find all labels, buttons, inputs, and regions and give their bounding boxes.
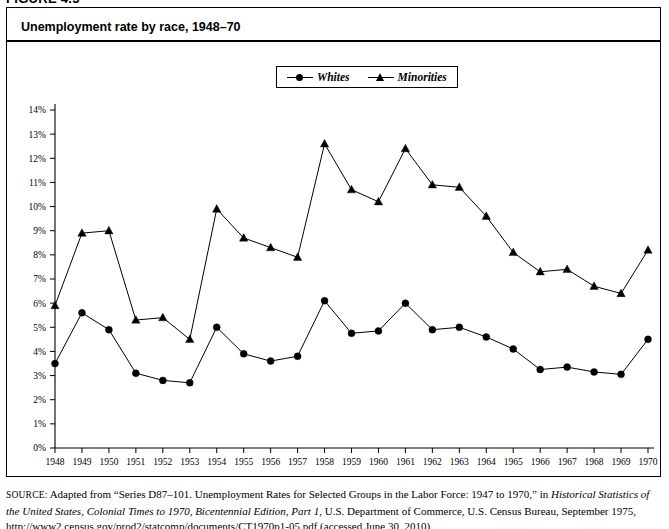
x-tick-label: 1963: [450, 457, 469, 467]
y-tick-label: 7%: [33, 274, 46, 284]
x-tick-label: 1970: [639, 457, 658, 467]
data-point-triangle[interactable]: [105, 226, 113, 234]
series-whites: [52, 297, 652, 386]
y-tick-label: 1%: [33, 419, 46, 429]
y-tick-label: 3%: [33, 371, 46, 381]
series-line: [55, 301, 648, 383]
data-point-circle[interactable]: [564, 364, 571, 371]
data-point-circle[interactable]: [159, 377, 166, 384]
y-tick-label: 14%: [29, 105, 47, 115]
y-tick-label: 4%: [33, 347, 46, 357]
x-tick-label: 1951: [126, 457, 145, 467]
y-tick-label: 0%: [33, 443, 46, 453]
y-tick-label: 12%: [29, 154, 47, 164]
data-point-circle[interactable]: [618, 371, 625, 378]
data-point-circle[interactable]: [375, 327, 382, 334]
x-tick-label: 1957: [288, 457, 307, 467]
figure-label: FIGURE 4.5: [6, 0, 80, 6]
x-tick-label: 1968: [585, 457, 604, 467]
data-point-circle[interactable]: [105, 326, 112, 333]
data-point-triangle[interactable]: [320, 139, 328, 147]
x-tick-label: 1965: [504, 457, 523, 467]
data-point-circle[interactable]: [52, 360, 59, 367]
data-point-circle[interactable]: [78, 309, 85, 316]
data-series-layer: [51, 139, 652, 386]
data-point-circle[interactable]: [537, 366, 544, 373]
x-tick-label: 1958: [315, 457, 334, 467]
data-point-triangle[interactable]: [644, 246, 652, 254]
y-tick-label: 11%: [29, 178, 46, 188]
data-point-circle[interactable]: [645, 336, 652, 343]
data-point-triangle[interactable]: [347, 185, 355, 193]
data-point-circle[interactable]: [321, 297, 328, 304]
y-tick-label: 5%: [33, 323, 46, 333]
x-tick-label: 1956: [261, 457, 280, 467]
y-tick-label: 13%: [29, 130, 47, 140]
figure-box: Unemployment rate by race, 1948–70 White…: [6, 7, 661, 477]
data-point-circle[interactable]: [510, 346, 517, 353]
data-point-circle[interactable]: [456, 324, 463, 331]
series-line: [55, 144, 648, 340]
data-point-circle[interactable]: [240, 350, 247, 357]
x-tick-label: 1954: [207, 457, 226, 467]
x-tick-label: 1948: [46, 457, 65, 467]
plot-area: 0%1%2%3%4%5%6%7%8%9%10%11%12%13%14% 1948…: [7, 8, 660, 476]
series-minorities: [51, 139, 652, 342]
x-tick-label: 1964: [477, 457, 496, 467]
data-point-circle[interactable]: [186, 379, 193, 386]
line-chart-svg: 0%1%2%3%4%5%6%7%8%9%10%11%12%13%14% 1948…: [7, 8, 660, 476]
data-point-circle[interactable]: [348, 330, 355, 337]
y-tick-label: 6%: [33, 299, 46, 309]
x-axis-ticks: 1948194919501951195219531954195519561957…: [46, 448, 658, 467]
x-tick-label: 1961: [396, 457, 415, 467]
x-tick-label: 1962: [423, 457, 442, 467]
data-point-triangle[interactable]: [159, 313, 167, 321]
y-tick-label: 8%: [33, 250, 46, 260]
source-text-1: Adapted from “Series D87–101. Unemployme…: [48, 488, 551, 500]
data-point-triangle[interactable]: [401, 144, 409, 152]
y-tick-label: 10%: [29, 202, 47, 212]
x-tick-label: 1966: [531, 457, 550, 467]
x-tick-label: 1955: [234, 457, 253, 467]
data-point-circle[interactable]: [294, 353, 301, 360]
data-point-triangle[interactable]: [186, 335, 194, 343]
y-tick-label: 2%: [33, 395, 46, 405]
data-point-triangle[interactable]: [563, 265, 571, 273]
source-note: SOURCE: Adapted from “Series D87–101. Un…: [6, 487, 658, 529]
data-point-circle[interactable]: [591, 368, 598, 375]
data-point-triangle[interactable]: [51, 301, 59, 309]
y-tick-label: 9%: [33, 226, 46, 236]
x-tick-label: 1949: [72, 457, 91, 467]
x-tick-label: 1967: [558, 457, 577, 467]
data-point-circle[interactable]: [429, 326, 436, 333]
data-point-circle[interactable]: [402, 300, 409, 307]
data-point-circle[interactable]: [267, 358, 274, 365]
data-point-circle[interactable]: [483, 333, 490, 340]
x-tick-label: 1952: [153, 457, 172, 467]
data-point-circle[interactable]: [213, 324, 220, 331]
x-tick-label: 1950: [99, 457, 118, 467]
x-tick-label: 1959: [342, 457, 361, 467]
data-point-triangle[interactable]: [590, 282, 598, 290]
data-point-circle[interactable]: [132, 370, 139, 377]
source-prefix: SOURCE:: [6, 490, 48, 500]
data-point-triangle[interactable]: [213, 205, 221, 213]
y-axis-ticks: 0%1%2%3%4%5%6%7%8%9%10%11%12%13%14%: [29, 105, 55, 453]
data-point-triangle[interactable]: [374, 197, 382, 205]
x-tick-label: 1953: [180, 457, 199, 467]
x-tick-label: 1969: [612, 457, 631, 467]
x-tick-label: 1960: [369, 457, 388, 467]
